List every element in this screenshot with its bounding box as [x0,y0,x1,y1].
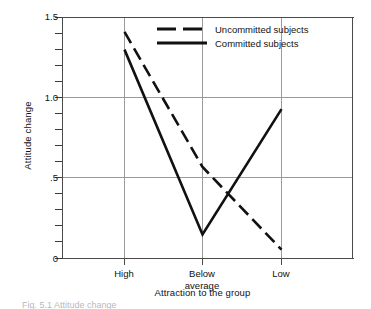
y-tick-label-0: 0 [32,254,58,264]
y-tick-label-0-5: .5 [32,173,58,183]
legend-item-committed: Committed subjects [156,36,308,50]
gridlines [63,98,354,178]
category-gridlines [125,18,282,259]
legend-swatch-solid-icon [156,38,208,48]
legend-item-uncommitted: Uncommitted subjects [156,22,308,36]
chart-legend: Uncommitted subjects Committed subjects [156,22,308,50]
x-axis-title: Attraction to the group [155,287,251,298]
x-axis-title-row: Attraction to the group [0,287,371,298]
legend-label-uncommitted: Uncommitted subjects [215,24,308,35]
y-tick-label-1-5: 1.5 [32,12,58,22]
x-tick-label-low: Low [236,268,326,280]
y-tick-label-1-0: 1.0 [32,93,58,103]
plot-frame [62,17,354,259]
y-major-ticks [55,18,62,259]
legend-swatch-dashed-icon [156,24,208,34]
legend-label-committed: Committed subjects [215,38,298,49]
y-minor-ticks [55,34,62,242]
cut-off-caption: Fig. 5.1 Attitude change [22,300,117,309]
chart-figure: Attitude change 1.5 1.0 .5 0 High Below … [0,0,371,309]
x-tick-label-high: High [79,268,169,280]
y-axis-title: Attitude change [22,76,33,196]
